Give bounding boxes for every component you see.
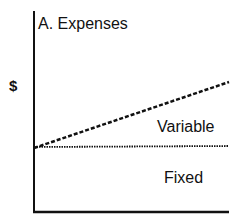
- fixed-region-label: Fixed: [164, 169, 203, 187]
- y-axis-label: $: [9, 77, 17, 94]
- chart-canvas: [0, 0, 242, 220]
- chart-title: A. Expenses: [38, 15, 128, 33]
- fixed-cost-line: [34, 146, 229, 147]
- variable-region-label: Variable: [157, 118, 215, 136]
- variable-cost-line: [34, 82, 229, 148]
